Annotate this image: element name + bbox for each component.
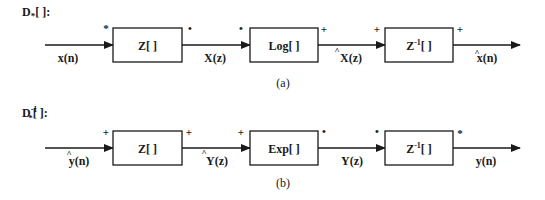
signal-label-xn: x(n): [58, 51, 79, 65]
mark-in-block2: •: [239, 22, 243, 34]
mark-out-block2-b: •: [322, 125, 326, 137]
hat-mark-Xz: ^: [334, 46, 339, 56]
mark-out-block2: +: [321, 23, 327, 35]
signal-label-Xz: X(z): [204, 51, 226, 65]
homomorphic-system-diagram: D*[ ]: Z[ ] Log[ ] Z-1[ ] * • • + + + x(…: [0, 0, 545, 200]
hat-mark-Yz: ^: [201, 148, 206, 158]
signal-label-Xhat-z: X(z): [340, 51, 362, 65]
hat-mark-yn: ^: [66, 149, 71, 159]
mark-out-block1: •: [188, 22, 192, 34]
signal-label-yn: y(n): [476, 154, 497, 168]
block-z-transform-label: Z[ ]: [138, 39, 157, 53]
mark-in-block2-b: +: [238, 126, 244, 138]
panel-b-title: D-1*[ ]:: [22, 105, 48, 123]
block-z-transform-b-label: Z[ ]: [138, 142, 157, 156]
panel-a: D*[ ]: Z[ ] Log[ ] Z-1[ ] * • • + + + x(…: [22, 5, 520, 90]
signal-label-yhat-n: y(n): [69, 154, 90, 168]
block-exp-label: Exp[ ]: [268, 142, 300, 156]
mark-out-block3: +: [457, 23, 463, 35]
hat-mark-xn: ^: [474, 48, 479, 58]
mark-in-block1-b: +: [103, 126, 109, 138]
block-log-label: Log[ ]: [269, 39, 300, 53]
signal-label-Yhat-z: Y(z): [206, 154, 228, 168]
panel-a-caption: (a): [276, 76, 289, 90]
mark-in-block3-b: •: [375, 125, 379, 137]
panel-b: D-1*[ ]: Z[ ] Exp[ ] Z-1[ ] + + + • • * …: [22, 105, 520, 190]
mark-in-block1: *: [103, 22, 109, 34]
mark-out-block3-b: *: [457, 127, 463, 139]
mark-out-block1-b: +: [186, 126, 192, 138]
panel-a-title: D*[ ]:: [22, 5, 50, 21]
signal-label-xhat-n: x(n): [477, 51, 498, 65]
signal-label-Yz: Y(z): [341, 154, 363, 168]
mark-in-block3: +: [374, 23, 380, 35]
panel-b-caption: (b): [276, 176, 290, 190]
